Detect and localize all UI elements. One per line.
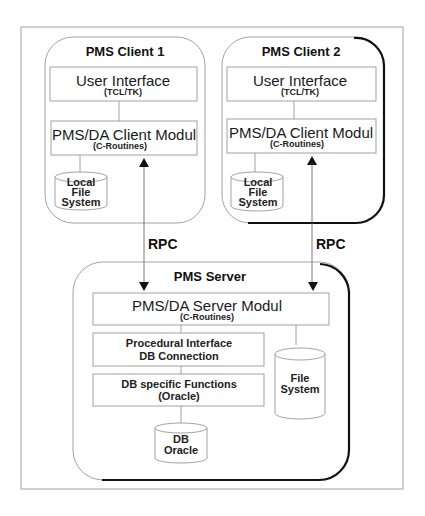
architecture-diagram: PMS Client 1 User Interface (TCL/TK) PMS… bbox=[0, 0, 425, 516]
rpc-1-label: RPC bbox=[148, 236, 178, 252]
db-oracle-cylinder: DB Oracle bbox=[155, 423, 207, 463]
client-1-modul-sub: (C-Routines) bbox=[93, 141, 147, 151]
rpc-2-arrowhead-down bbox=[308, 282, 318, 291]
procedural-interface-line-1: Procedural Interface bbox=[126, 337, 232, 349]
client-1-title: PMS Client 1 bbox=[86, 44, 165, 59]
procedural-interface-line-2: DB Connection bbox=[139, 350, 219, 362]
client-1-ui-sub: (TCL/TK) bbox=[104, 87, 142, 97]
client-1-local-file-system-cylinder: Local File System bbox=[55, 172, 107, 210]
rpc-2-label: RPC bbox=[316, 236, 346, 252]
server-modul-sub: (C-Routines) bbox=[180, 312, 234, 322]
client-2-local-file-system-cylinder: Local File System bbox=[231, 172, 283, 211]
server-group: PMS Server PMS/DA Server Modul (C-Routin… bbox=[73, 262, 349, 480]
server-file-system-cylinder: File System bbox=[275, 348, 325, 419]
client-2-modul-sub: (C-Routines) bbox=[270, 139, 324, 149]
db-specific-functions-line-1: DB specific Functions bbox=[121, 378, 237, 390]
client-2-storage-line-3: System bbox=[238, 196, 277, 208]
server-file-system-line-2: System bbox=[280, 383, 319, 395]
client-1-group: PMS Client 1 User Interface (TCL/TK) PMS… bbox=[45, 37, 205, 223]
rpc-1-arrowhead-down bbox=[139, 282, 149, 291]
client-2-ui-sub: (TCL/TK) bbox=[281, 87, 319, 97]
client-2-group: PMS Client 2 User Interface (TCL/TK) PMS… bbox=[222, 37, 384, 223]
client-2-title: PMS Client 2 bbox=[262, 44, 341, 59]
server-title: PMS Server bbox=[174, 269, 246, 284]
client-1-storage-line-3: System bbox=[61, 196, 100, 208]
rpc-1-arrowhead-up bbox=[139, 158, 149, 167]
rpc-2-arrowhead-up bbox=[307, 156, 317, 165]
rpc-connection-1: RPC bbox=[139, 158, 178, 291]
db-oracle-line-2: Oracle bbox=[164, 444, 198, 456]
db-specific-functions-line-2: (Oracle) bbox=[158, 390, 200, 402]
